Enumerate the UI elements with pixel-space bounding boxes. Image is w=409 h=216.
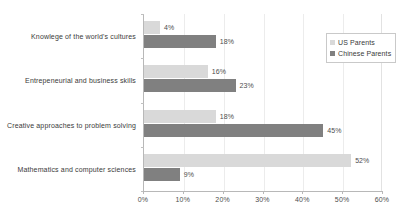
- legend-item-chinese-parents: Chinese Parents: [330, 48, 391, 59]
- category-label: Creative approaches to problem solving: [0, 122, 136, 129]
- bar-value-label: 16%: [208, 65, 226, 78]
- bar-value-label: 9%: [180, 168, 194, 181]
- legend-swatch-icon: [330, 51, 335, 56]
- legend: US Parents Chinese Parents: [326, 33, 396, 63]
- bar-group: 16% 23%: [144, 58, 381, 102]
- legend-swatch-icon: [330, 40, 335, 45]
- bar-row-chinese-parents: 18%: [144, 35, 234, 48]
- bar-us-parents: [144, 154, 351, 167]
- legend-label: Chinese Parents: [338, 50, 391, 57]
- bar-chinese-parents: [144, 124, 323, 137]
- bar-row-us-parents: 16%: [144, 65, 226, 78]
- x-axis-tick: [143, 191, 144, 194]
- bar-row-chinese-parents: 45%: [144, 124, 342, 137]
- bar-row-us-parents: 52%: [144, 154, 369, 167]
- bar-value-label: 4%: [160, 21, 174, 34]
- bar-value-label: 18%: [216, 110, 234, 123]
- bar-row-chinese-parents: 23%: [144, 79, 254, 92]
- x-axis-tick: [342, 191, 343, 194]
- category-label: Knowlege of the world's cultures: [0, 33, 136, 40]
- x-axis-tick-label: 20%: [215, 196, 230, 203]
- bar-chinese-parents: [144, 35, 216, 48]
- bar-row-chinese-parents: 9%: [144, 168, 194, 181]
- legend-label: US Parents: [338, 39, 375, 46]
- bar-value-label: 52%: [351, 154, 369, 167]
- x-axis-tick-label: 60%: [375, 196, 390, 203]
- x-axis-tick-label: 0%: [138, 196, 149, 203]
- x-axis-tick: [263, 191, 264, 194]
- x-axis-tick: [183, 191, 184, 194]
- x-axis-tick-label: 50%: [335, 196, 350, 203]
- x-axis-tick-label: 40%: [295, 196, 310, 203]
- legend-item-us-parents: US Parents: [330, 37, 391, 48]
- bar-chinese-parents: [144, 79, 236, 92]
- x-axis-tick: [382, 191, 383, 194]
- bar-value-label: 45%: [323, 124, 341, 137]
- category-label: Entrepeneurial and business skills: [0, 77, 136, 84]
- x-axis-tick: [223, 191, 224, 194]
- bar-value-label: 23%: [236, 79, 254, 92]
- bar-row-us-parents: 18%: [144, 110, 234, 123]
- bar-us-parents: [144, 110, 216, 123]
- x-axis-tick: [302, 191, 303, 194]
- x-axis-tick-label: 30%: [255, 196, 270, 203]
- bar-us-parents: [144, 21, 160, 34]
- bar-chinese-parents: [144, 168, 180, 181]
- category-label: Mathematics and computer sciences: [0, 166, 136, 173]
- bar-row-us-parents: 4%: [144, 21, 174, 34]
- bar-us-parents: [144, 65, 208, 78]
- bar-group: 18% 45%: [144, 103, 381, 147]
- bar-chart: 4% 18% 16% 23% 18% 45%: [0, 0, 409, 216]
- bar-value-label: 18%: [216, 35, 234, 48]
- bar-group: 52% 9%: [144, 147, 381, 191]
- x-axis-tick-label: 10%: [176, 196, 191, 203]
